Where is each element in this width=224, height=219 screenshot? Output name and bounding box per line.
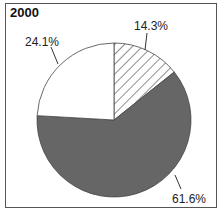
leader-line-0: [145, 33, 147, 50]
leader-line-2: [51, 47, 58, 64]
pie-slice-2: [37, 43, 114, 120]
label-slice-2: 24.1%: [25, 35, 59, 49]
label-slice-1: 61.6%: [172, 192, 206, 206]
label-slice-0: 14.3%: [134, 19, 168, 33]
pie-chart: 14.3% 61.6% 24.1%: [0, 0, 224, 219]
leader-line-1: [175, 175, 181, 189]
